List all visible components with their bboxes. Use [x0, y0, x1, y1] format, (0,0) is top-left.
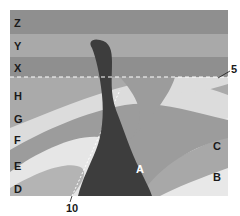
layer-z: [10, 10, 228, 34]
label-d: D: [14, 184, 22, 195]
layer-y: [10, 34, 228, 57]
geologic-cross-section: [0, 0, 240, 216]
label-e: E: [14, 161, 21, 172]
label-z: Z: [14, 18, 21, 29]
label-x: X: [14, 63, 21, 74]
label-b: B: [213, 172, 221, 183]
label-c: C: [213, 141, 221, 152]
label-g: G: [14, 114, 23, 125]
label-y: Y: [14, 41, 21, 52]
layer-x: [10, 57, 228, 77]
label-f: F: [14, 135, 21, 146]
label-a: A: [136, 164, 144, 175]
marker-10: 10: [66, 203, 78, 214]
label-h: H: [14, 91, 22, 102]
marker-5: 5: [231, 64, 237, 75]
